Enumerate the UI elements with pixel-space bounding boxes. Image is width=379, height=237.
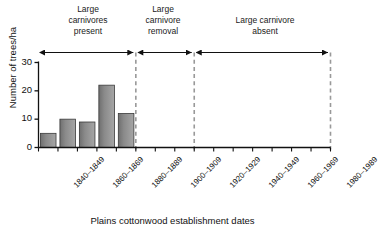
- bar-1880–1889: [118, 114, 134, 148]
- y-tick-label-10: 10: [10, 112, 32, 123]
- x-tick-label-1980–1989: 1980–1989: [344, 155, 379, 190]
- y-tick-label-30: 30: [10, 56, 32, 67]
- annotation-label-carnivores-present: Large carnivores present: [48, 4, 128, 37]
- bar-1840–1849: [40, 133, 56, 147]
- y-tick-label-0: 0: [10, 141, 32, 152]
- bar-1870–1879: [99, 85, 115, 147]
- x-axis-title: Plains cottonwood establishment dates: [0, 215, 345, 226]
- y-tick-label-20: 20: [10, 84, 32, 95]
- annotation-label-carnivore-removal: Large carnivore removal: [132, 4, 194, 37]
- bar-1860–1869: [79, 122, 95, 148]
- y-axis-title: Number of trees/ha: [7, 20, 18, 116]
- annotation-label-carnivore-absent: Large carnivore absent: [198, 15, 332, 37]
- bar-1850–1859: [60, 119, 76, 147]
